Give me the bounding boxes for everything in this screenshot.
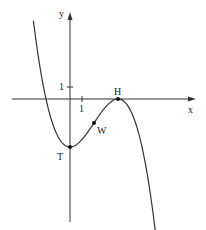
x-tick-label: 1 — [79, 103, 84, 114]
point-H — [116, 97, 120, 101]
point-label-H: H — [114, 86, 121, 97]
point-T — [68, 145, 72, 149]
function-curve — [33, 21, 155, 230]
x-axis-label: x — [188, 104, 193, 115]
function-graph: y x 1 1 H W T — [0, 0, 206, 230]
x-axis-arrow-icon — [188, 97, 196, 102]
point-W — [92, 121, 96, 125]
point-label-T: T — [57, 151, 63, 162]
y-tick-label: 1 — [59, 81, 64, 92]
point-label-W: W — [97, 125, 107, 136]
y-axis-label: y — [59, 8, 64, 19]
y-axis-arrow-icon — [68, 12, 73, 20]
